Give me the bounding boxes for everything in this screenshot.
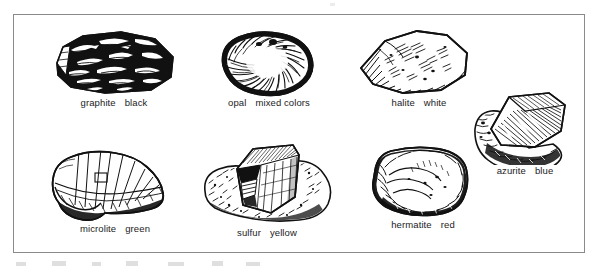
scan-artifact-bottom-6 xyxy=(212,261,223,266)
specimen-color-graphite: black xyxy=(125,97,148,108)
specimen-color-azurite: blue xyxy=(535,165,553,176)
specimen-color-sulfur: yellow xyxy=(270,227,297,238)
scan-artifact-top xyxy=(330,3,335,6)
specimen-name-microlite: microlite xyxy=(80,223,116,234)
specimen-caption-hermatite: hermatitered xyxy=(349,219,497,230)
scan-artifact-bottom-4 xyxy=(126,261,138,266)
scan-artifact-bottom-7 xyxy=(246,262,260,266)
specimen-caption-opal: opalmixed colors xyxy=(194,97,344,108)
specimen-caption-sulfur: sulfuryellow xyxy=(192,227,342,238)
figure-root: graphiteblack xyxy=(0,0,600,271)
hermatite-rock-icon xyxy=(349,145,497,219)
specimen-graphite: graphiteblack xyxy=(44,29,184,108)
specimen-name-azurite: azurite xyxy=(497,165,526,176)
specimen-plate-frame: graphiteblack xyxy=(13,14,585,253)
specimen-color-opal: mixed colors xyxy=(255,97,310,108)
specimen-name-sulfur: sulfur xyxy=(237,227,261,238)
specimen-name-opal: opal xyxy=(228,97,246,108)
specimen-sulfur: sulfuryellow xyxy=(192,139,342,238)
specimen-name-graphite: graphite xyxy=(81,97,116,108)
scan-artifact-bottom-1 xyxy=(16,262,26,266)
specimen-name-halite: halite xyxy=(392,97,415,108)
opal-rock-icon xyxy=(194,29,344,97)
specimen-caption-graphite: graphiteblack xyxy=(44,97,184,108)
specimen-hermatite: hermatitered xyxy=(349,145,497,230)
specimen-opal: opalmixed colors xyxy=(194,29,344,108)
scan-artifact-bottom-2 xyxy=(52,261,66,266)
graphite-rock-icon xyxy=(44,29,184,97)
microlite-rock-icon xyxy=(42,143,188,223)
specimen-name-hermatite: hermatite xyxy=(391,219,432,230)
specimen-color-hermatite: red xyxy=(441,219,455,230)
scan-artifact-bottom-3 xyxy=(92,262,101,266)
specimen-caption-microlite: microlitegreen xyxy=(42,223,188,234)
specimen-color-microlite: green xyxy=(125,223,150,234)
sulfur-rock-icon xyxy=(192,139,342,227)
specimen-color-halite: white xyxy=(424,97,447,108)
specimen-microlite: microlitegreen xyxy=(42,143,188,234)
scan-artifact-bottom-5 xyxy=(168,262,184,266)
